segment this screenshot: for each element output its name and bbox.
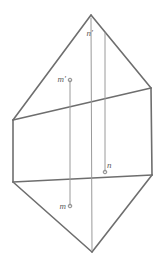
label-m: m — [60, 201, 67, 211]
edge-lower-right-to-bottom-apex — [92, 175, 152, 252]
label-n-prime: n' — [87, 28, 95, 38]
projection-lines-group — [70, 18, 105, 250]
geometry-drawing: n' m' n m — [0, 0, 164, 267]
edge-right-vertical — [151, 88, 152, 175]
projection-line-center-axis — [91, 18, 92, 250]
edge-lower-belt — [13, 175, 152, 182]
edge-top-apex-to-upper-right — [91, 15, 151, 88]
diagram-canvas: n' m' n m — [0, 0, 164, 267]
label-n: n — [107, 160, 112, 170]
edge-lower-left-to-bottom-apex — [13, 182, 92, 252]
vertex-labels-group: n' m' n m — [58, 28, 112, 211]
solid-edges-group — [13, 15, 152, 252]
label-m-prime: m' — [58, 74, 67, 84]
point-markers-group — [68, 78, 107, 208]
